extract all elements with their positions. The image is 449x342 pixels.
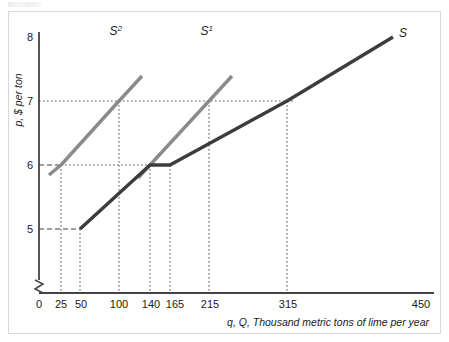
y-tick-labels: 8 7 6 5 <box>27 31 33 235</box>
supply-curve-s1 <box>138 76 232 178</box>
x-tick-50: 50 <box>75 298 87 310</box>
curve-labels: S2 S1 S <box>110 24 407 41</box>
y-tick-7: 7 <box>27 95 33 107</box>
x-tick-450: 450 <box>412 298 430 310</box>
curve-label-s: S <box>399 26 407 40</box>
supply-curve-s <box>80 37 393 229</box>
curve-label-s2-sup: 2 <box>117 24 123 33</box>
x-tick-215: 215 <box>201 298 219 310</box>
y-tick-8: 8 <box>27 31 33 43</box>
x-tick-0: 0 <box>36 298 42 310</box>
axis-break-zigzag-icon <box>35 280 43 293</box>
curve-label-s2: S2 <box>110 24 123 39</box>
curve-label-s2-base: S <box>110 24 118 38</box>
x-tick-25: 25 <box>55 298 67 310</box>
curve-label-s1-base: S <box>201 24 209 38</box>
y-axis-title: p, $ per ton <box>12 73 24 127</box>
x-axis-title: q, Q, Thousand metric tons of lime per y… <box>227 316 429 328</box>
figure-frame: 8 7 6 5 p, $ per ton 0 25 50 100 140 165… <box>8 11 441 334</box>
supply-curve-s2 <box>49 76 142 175</box>
x-tick-165: 165 <box>166 298 184 310</box>
x-tick-140: 140 <box>142 298 160 310</box>
supply-curve-chart: 8 7 6 5 p, $ per ton 0 25 50 100 140 165… <box>9 12 440 333</box>
x-tick-labels: 0 25 50 100 140 165 215 315 450 <box>36 298 430 310</box>
curve-label-s1: S1 <box>201 24 213 39</box>
y-tick-6: 6 <box>27 159 33 171</box>
x-tick-100: 100 <box>110 298 128 310</box>
y-tick-5: 5 <box>27 223 33 235</box>
x-tick-315: 315 <box>279 298 297 310</box>
guide-lines <box>39 101 295 292</box>
curve-label-s1-sup: 1 <box>209 24 213 33</box>
axis-lines <box>35 32 434 293</box>
scan-smudge <box>8 2 42 7</box>
scan-artifact-strip <box>0 0 449 11</box>
